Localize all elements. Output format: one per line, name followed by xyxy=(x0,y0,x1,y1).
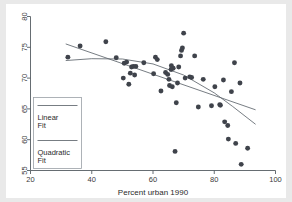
scatter-plot: 55606570758020406080100Percent urban 199… xyxy=(0,0,292,202)
y-tick-label: 65 xyxy=(20,105,29,113)
x-tick-label: 60 xyxy=(149,175,157,184)
data-point xyxy=(159,89,164,94)
data-point xyxy=(175,81,180,86)
data-point xyxy=(155,57,160,62)
data-point xyxy=(180,45,185,50)
data-point xyxy=(181,31,186,36)
data-point xyxy=(173,149,178,154)
data-point xyxy=(65,55,70,60)
data-point xyxy=(238,81,243,86)
y-tick-label: 75 xyxy=(20,43,29,51)
data-point xyxy=(141,60,146,65)
data-point xyxy=(189,75,194,80)
legend-label-quadratic-fit-line2: Fit xyxy=(38,156,47,165)
data-point xyxy=(166,77,171,82)
data-point xyxy=(218,103,223,108)
data-point xyxy=(176,65,181,70)
data-point xyxy=(225,123,230,128)
data-point xyxy=(212,84,217,89)
y-tick-label: 80 xyxy=(20,12,29,20)
legend-label-linear-fit-line2: Fit xyxy=(38,121,47,130)
data-point xyxy=(78,44,83,49)
x-tick-label: 20 xyxy=(26,175,34,184)
data-point xyxy=(133,64,138,69)
data-point xyxy=(245,146,250,151)
data-point xyxy=(201,77,206,82)
x-tick-label: 80 xyxy=(210,175,218,184)
x-tick-label: 40 xyxy=(88,175,96,184)
data-point xyxy=(221,78,226,83)
y-tick-label: 60 xyxy=(20,136,29,144)
x-axis-title: Percent urban 1990 xyxy=(118,188,189,197)
data-point xyxy=(132,73,137,78)
data-point xyxy=(121,76,126,81)
data-point xyxy=(183,76,188,81)
data-point xyxy=(229,89,234,94)
data-point xyxy=(226,137,231,142)
data-point xyxy=(192,53,197,58)
data-point xyxy=(124,60,129,65)
data-point xyxy=(174,100,179,105)
data-point xyxy=(151,71,156,76)
data-point xyxy=(209,103,214,108)
chart-page: 55606570758020406080100Percent urban 199… xyxy=(0,0,292,202)
fit-line-linear-fit xyxy=(66,44,256,110)
data-point xyxy=(114,55,119,60)
data-point xyxy=(103,39,108,44)
data-point xyxy=(170,84,175,89)
x-tick-label: 100 xyxy=(269,175,282,184)
data-point xyxy=(233,141,238,146)
data-point xyxy=(165,72,170,77)
y-tick-label: 55 xyxy=(20,166,29,174)
y-tick-label: 70 xyxy=(20,74,29,82)
data-point xyxy=(239,162,244,167)
data-point xyxy=(178,53,183,58)
data-point xyxy=(126,82,131,87)
data-point xyxy=(196,105,201,110)
data-point xyxy=(232,60,237,65)
data-point xyxy=(128,71,133,76)
data-point xyxy=(171,66,176,71)
